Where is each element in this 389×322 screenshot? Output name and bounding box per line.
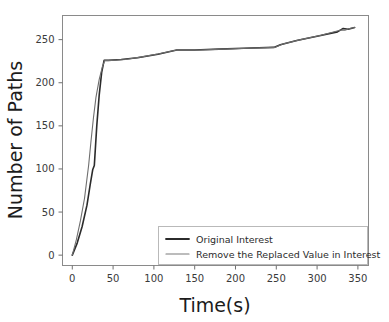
series-line-original-interest — [72, 28, 354, 256]
legend-label-remove-replaced-value: Remove the Replaced Value in Interest — [196, 249, 380, 260]
x-tick-label: 150 — [185, 273, 204, 284]
y-axis-title: Number of Paths — [4, 61, 26, 219]
x-axis-title: Time(s) — [178, 294, 250, 316]
data-series-group — [72, 28, 354, 256]
y-tick-label: 250 — [35, 34, 54, 45]
series-line-remove-the-replaced-value-in-interest — [72, 28, 354, 256]
x-tick-label: 300 — [308, 273, 327, 284]
x-tick-label: 50 — [107, 273, 120, 284]
chart-legend[interactable]: Original Interest Remove the Replaced Va… — [159, 227, 381, 265]
legend-label-original-interest: Original Interest — [196, 234, 273, 245]
x-tick-label: 200 — [226, 273, 245, 284]
x-tick-label: 100 — [144, 273, 163, 284]
y-tick-label: 150 — [35, 120, 54, 131]
y-tick-label: 0 — [48, 250, 54, 261]
x-tick-label: 350 — [348, 273, 367, 284]
y-axis-ticks: 050100150200250 — [35, 34, 62, 261]
y-tick-label: 200 — [35, 77, 54, 88]
y-tick-label: 50 — [42, 207, 55, 218]
y-tick-label: 100 — [35, 163, 54, 174]
x-tick-label: 0 — [69, 273, 75, 284]
chart-figure: 050100150200250300350 050100150200250 Ti… — [0, 0, 389, 322]
x-tick-label: 250 — [267, 273, 286, 284]
x-axis-ticks: 050100150200250300350 — [69, 266, 367, 284]
line-chart: 050100150200250300350 050100150200250 Ti… — [0, 0, 389, 322]
